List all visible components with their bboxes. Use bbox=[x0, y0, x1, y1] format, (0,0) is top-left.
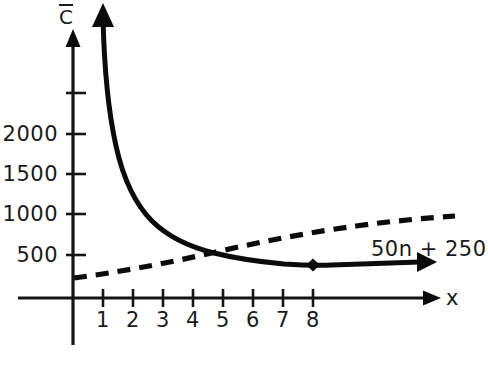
average-cost-curve-start-arrowhead bbox=[92, 3, 114, 27]
average-cost-curve-point-marker bbox=[306, 259, 320, 272]
y-axis-title: C bbox=[59, 4, 73, 27]
x-tick-label-7: 7 bbox=[273, 310, 293, 331]
x-tick-label-3: 3 bbox=[153, 310, 173, 331]
x-tick-label-1: 1 bbox=[93, 310, 113, 331]
y-tick-label-2000: 2000 bbox=[0, 124, 58, 145]
x-tick-label-5: 5 bbox=[213, 310, 233, 331]
total-cost-line-annotation: 50n + 250 bbox=[371, 239, 487, 260]
x-axis-title: x bbox=[446, 288, 458, 309]
average-cost-curve bbox=[92, 3, 437, 272]
y-axis-arrowhead bbox=[66, 29, 81, 47]
x-tick-label-4: 4 bbox=[183, 310, 203, 331]
y-tick-label-1500: 1500 bbox=[0, 164, 58, 185]
x-axis-arrowhead bbox=[423, 291, 441, 306]
y-tick-label-1000: 1000 bbox=[0, 204, 58, 225]
y-axis-ticks bbox=[66, 93, 86, 255]
x-tick-label-6: 6 bbox=[243, 310, 263, 331]
x-tick-label-8: 8 bbox=[303, 310, 323, 331]
x-axis bbox=[18, 291, 441, 306]
x-tick-label-2: 2 bbox=[123, 310, 143, 331]
figure-root: C x 2000 1500 1000 500 1 2 3 4 5 6 7 8 5… bbox=[0, 0, 488, 367]
y-tick-label-500: 500 bbox=[0, 245, 58, 266]
